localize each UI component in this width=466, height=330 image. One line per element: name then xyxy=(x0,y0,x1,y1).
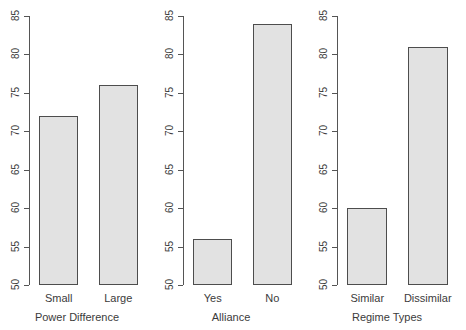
y-tick-label-text: 85 xyxy=(319,10,329,21)
x-category-label: Dissimilar xyxy=(398,292,459,304)
bar-chart-figure: 5055606570758085 SmallLarge Power Differ… xyxy=(0,0,466,330)
y-tick-label: 80 xyxy=(16,54,26,65)
y-tick-label-text: 55 xyxy=(165,240,175,251)
y-tick-label: 50 xyxy=(324,284,334,295)
x-axis-title-panel-2: Regime Types xyxy=(308,311,466,323)
y-tick-label-text: 80 xyxy=(319,48,329,59)
y-tick-label-text: 70 xyxy=(319,125,329,136)
y-tick-label: 85 xyxy=(170,15,180,26)
y-tick-label-text: 70 xyxy=(165,125,175,136)
x-category-label: Small xyxy=(29,292,89,304)
y-tick-label: 60 xyxy=(16,208,26,219)
y-tick-label-text: 70 xyxy=(11,125,21,136)
y-tick-label: 65 xyxy=(170,169,180,180)
y-tick-label: 60 xyxy=(170,208,180,219)
x-category-label: Yes xyxy=(183,292,243,304)
y-tick-label-text: 60 xyxy=(11,202,21,213)
chart-panel-alliance: 5055606570758085 YesNo Alliance xyxy=(154,0,308,330)
y-tick-label: 75 xyxy=(16,92,26,103)
y-tick-label-text: 55 xyxy=(11,240,21,251)
y-tick-label: 55 xyxy=(324,246,334,257)
y-tick-label: 75 xyxy=(170,92,180,103)
bar xyxy=(99,85,138,285)
y-tick-label-text: 80 xyxy=(165,48,175,59)
y-tick-label: 75 xyxy=(324,92,334,103)
bar xyxy=(253,24,292,285)
y-tick-label: 65 xyxy=(324,169,334,180)
bar xyxy=(39,116,78,285)
y-tick-label-text: 75 xyxy=(319,87,329,98)
y-tick-label-text: 55 xyxy=(319,240,329,251)
x-category-label: No xyxy=(243,292,303,304)
y-tick-label: 55 xyxy=(170,246,180,257)
y-tick-label-text: 85 xyxy=(165,10,175,21)
y-tick-label-text: 75 xyxy=(11,87,21,98)
y-tick-label-text: 65 xyxy=(165,164,175,175)
plot-area-panel-1 xyxy=(183,16,302,285)
y-tick-label: 70 xyxy=(324,131,334,142)
y-tick-label-text: 50 xyxy=(165,279,175,290)
x-axis-title-panel-0: Power Difference xyxy=(0,311,154,323)
chart-panel-regime-types: 5055606570758085 SimilarDissimilar Regim… xyxy=(308,0,466,330)
y-tick-label-text: 75 xyxy=(165,87,175,98)
y-tick-label: 60 xyxy=(324,208,334,219)
y-tick-label: 85 xyxy=(324,15,334,26)
plot-area-panel-2 xyxy=(337,16,458,285)
bar xyxy=(408,47,448,285)
y-axis-ticks-panel-0: 5055606570758085 xyxy=(0,16,29,285)
y-tick-label: 85 xyxy=(16,15,26,26)
y-axis-ticks-panel-1: 5055606570758085 xyxy=(154,16,183,285)
plot-area-panel-0 xyxy=(29,16,148,285)
chart-panel-power-difference: 5055606570758085 SmallLarge Power Differ… xyxy=(0,0,154,330)
y-tick-label: 80 xyxy=(324,54,334,65)
y-axis-ticks-panel-2: 5055606570758085 xyxy=(308,16,337,285)
x-category-label: Large xyxy=(89,292,149,304)
y-tick-label: 65 xyxy=(16,169,26,180)
x-category-label: Similar xyxy=(337,292,398,304)
x-axis-title-panel-1: Alliance xyxy=(154,311,308,323)
y-tick-label: 55 xyxy=(16,246,26,257)
bar xyxy=(347,208,387,285)
y-tick-label: 50 xyxy=(170,284,180,295)
y-tick-label-text: 60 xyxy=(319,202,329,213)
y-tick-label-text: 60 xyxy=(165,202,175,213)
y-tick-label-text: 50 xyxy=(319,279,329,290)
bar xyxy=(193,239,232,285)
y-tick-label-text: 80 xyxy=(11,48,21,59)
y-tick-label: 70 xyxy=(16,131,26,142)
y-tick-label-text: 65 xyxy=(319,164,329,175)
y-tick-label-text: 85 xyxy=(11,10,21,21)
y-tick-label: 80 xyxy=(170,54,180,65)
y-tick-label-text: 65 xyxy=(11,164,21,175)
y-tick-label: 50 xyxy=(16,284,26,295)
y-tick-label: 70 xyxy=(170,131,180,142)
y-tick-label-text: 50 xyxy=(11,279,21,290)
